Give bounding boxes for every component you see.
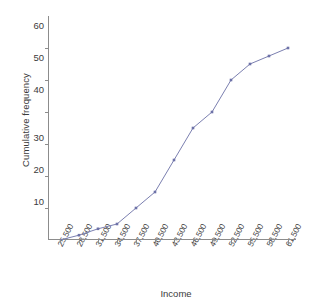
y-axis-ticks (45, 49, 49, 209)
data-point-marker (268, 55, 271, 58)
x-axis-ticks (61, 240, 289, 244)
data-line (60, 48, 288, 240)
data-point-marker (116, 223, 119, 226)
data-point-marker (287, 47, 290, 50)
cumulative-frequency-chart: Cumulative frequency 60 50 40 30 20 10 2… (0, 0, 321, 308)
data-point-marker (192, 127, 195, 130)
data-point-marker (249, 63, 252, 66)
data-point-marker (230, 79, 233, 82)
data-point-marker (78, 234, 81, 237)
data-point-marker (135, 207, 138, 210)
data-point-marker (211, 111, 214, 114)
data-point-marker (173, 159, 176, 162)
data-point-marker (154, 191, 157, 194)
plot-area (0, 0, 321, 308)
data-point-marker (97, 228, 100, 231)
data-markers (78, 47, 290, 237)
